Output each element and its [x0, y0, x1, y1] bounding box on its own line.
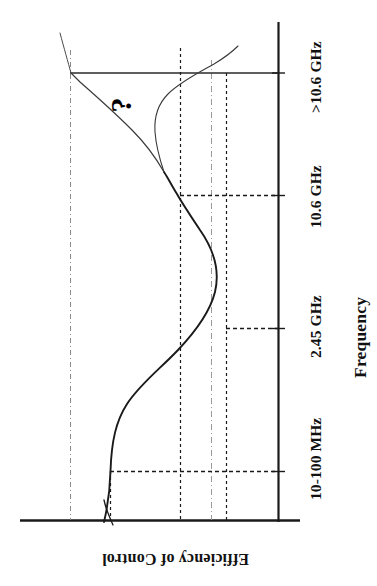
figure-page: ? 10-100 MHz 2.45 GHz 10.6 GHz >10.6 GHz… — [0, 0, 377, 586]
question-mark-annotation: ? — [104, 98, 138, 113]
efficiency-curve-upper-tail — [60, 33, 71, 73]
tick-label-gt-10-6ghz: >10.6 GHz — [308, 41, 324, 113]
rotated-chart-figure: ? 10-100 MHz 2.45 GHz 10.6 GHz >10.6 GHz… — [0, 0, 377, 586]
efficiency-curve-upper-branch — [71, 73, 164, 172]
tick-label-245ghz: 2.45 GHz — [308, 295, 324, 358]
tick-label-10-100mhz: 10-100 MHz — [308, 418, 324, 500]
efficiency-curve-uncertain-branch — [155, 46, 238, 172]
y-axis-title: Efficiency of Control — [102, 551, 249, 567]
efficiency-curve-main — [104, 172, 217, 522]
tick-label-10-6ghz: 10.6 GHz — [308, 165, 324, 228]
x-axis-title: Frequency — [352, 297, 370, 378]
